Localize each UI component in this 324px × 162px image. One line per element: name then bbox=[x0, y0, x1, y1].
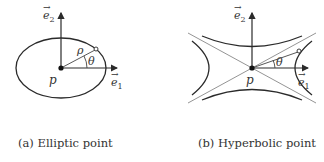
hyperbola-branch-left bbox=[192, 41, 209, 95]
origin-point bbox=[249, 65, 254, 70]
caption-elliptic: (a) Elliptic point bbox=[18, 136, 113, 150]
e1-vector-arrow-glyph: → bbox=[111, 69, 119, 79]
origin-label-p: p bbox=[246, 73, 254, 87]
radius-label-rho: ρ bbox=[76, 44, 84, 57]
e2-vector-arrow-glyph: → bbox=[43, 2, 51, 12]
e2-vector-arrow-glyph: → bbox=[234, 2, 242, 12]
origin-point bbox=[58, 65, 63, 70]
e1-vector-arrow-glyph: → bbox=[298, 69, 306, 79]
curve-point-marker bbox=[94, 47, 98, 51]
angle-label-theta: θ bbox=[276, 56, 283, 69]
angle-arc bbox=[273, 60, 275, 68]
angle-label-theta: θ bbox=[88, 55, 95, 68]
curve-point-marker bbox=[297, 49, 301, 53]
origin-label-p: p bbox=[49, 73, 57, 87]
hyperbolic-point-diagram: e2 → e1 → p θ bbox=[188, 2, 316, 103]
elliptic-point-diagram: e2 → e1 → p ρ θ bbox=[16, 2, 123, 98]
angle-arc bbox=[84, 56, 87, 68]
caption-hyperbolic: (b) Hyperbolic point bbox=[198, 136, 316, 150]
hyperbola-branch-bottom bbox=[202, 90, 302, 101]
